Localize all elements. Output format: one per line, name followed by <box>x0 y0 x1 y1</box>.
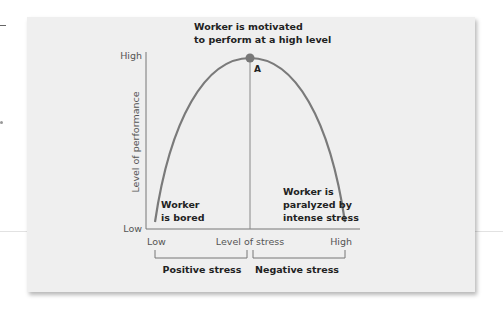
x-axis-title: Level of stress <box>216 236 284 247</box>
paralyzed-line-2: paralyzed by <box>283 199 353 210</box>
y-axis-title: Level of performance <box>130 91 141 192</box>
y-low-label: Low <box>123 223 142 234</box>
negative-stress-label: Negative stress <box>255 264 339 275</box>
title-line-2: to perform at a high level <box>194 34 331 45</box>
paralyzed-line-1: Worker is <box>283 186 334 197</box>
positive-bracket <box>155 250 247 258</box>
y-high-label: High <box>120 50 142 61</box>
paralyzed-line-3: intense stress <box>283 212 359 223</box>
title-line-1: Worker is motivated <box>194 21 303 32</box>
point-a-label: A <box>254 64 261 74</box>
positive-stress-label: Positive stress <box>163 264 242 275</box>
chart: Worker is motivated to perform at a high… <box>0 0 503 314</box>
bored-line-2: is bored <box>161 212 204 223</box>
negative-bracket <box>253 250 345 258</box>
bored-line-1: Worker <box>161 199 200 210</box>
peak-point-a <box>246 54 255 63</box>
x-low-label: Low <box>147 236 166 247</box>
x-high-label: High <box>330 236 352 247</box>
